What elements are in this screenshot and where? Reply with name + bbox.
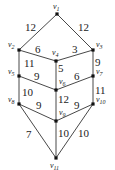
node-label: v5 — [8, 67, 15, 77]
node-v10 — [91, 102, 94, 105]
edge-weight: 12 — [58, 93, 69, 105]
edge-weight: 10 — [22, 86, 34, 98]
node-label: v4 — [52, 48, 59, 58]
node-v6 — [54, 88, 57, 91]
node-v3 — [91, 48, 94, 51]
edge-weight: 9 — [34, 70, 40, 82]
edge-weight: 10 — [58, 127, 70, 139]
node-v8 — [17, 102, 20, 105]
edge-weight: 12 — [78, 21, 89, 33]
edge-weight: 6 — [74, 70, 80, 82]
node-v1 — [55, 12, 58, 15]
node-label: v8 — [8, 95, 15, 105]
node-v9 — [54, 119, 57, 122]
node-v7 — [91, 74, 94, 77]
edge-weight: 3 — [72, 43, 78, 55]
node-label: v6 — [59, 77, 66, 87]
node-label: v9 — [59, 108, 66, 118]
node-v11 — [54, 156, 57, 159]
edge-weight: 9 — [74, 99, 80, 111]
node-label: v1 — [53, 2, 60, 12]
node-v4 — [54, 59, 57, 62]
node-v2 — [17, 48, 20, 51]
node-label: v3 — [96, 40, 103, 50]
edge-weight: 6 — [35, 43, 41, 55]
edge-weight: 9 — [36, 99, 42, 111]
edge-weight: 7 — [26, 128, 32, 140]
node-label: v7 — [96, 67, 104, 77]
node-label: v2 — [8, 40, 15, 50]
edge-weight: 12 — [25, 21, 36, 33]
edge-weight: 11 — [24, 57, 35, 69]
node-v5 — [17, 74, 20, 77]
node-label: v11 — [50, 161, 59, 170]
weighted-graph-diagram: 1212631159961012119971010 v1v2v3v4v5v6v7… — [0, 0, 115, 170]
edge-weight: 5 — [58, 62, 64, 74]
node-label: v10 — [96, 95, 106, 105]
edge-weight: 10 — [78, 127, 90, 139]
